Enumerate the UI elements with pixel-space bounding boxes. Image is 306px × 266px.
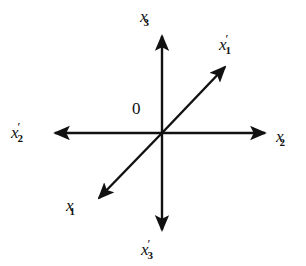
x1-axis-label: x1 [66,193,75,217]
x3-prime-axis-label: x′3 [141,237,153,261]
x1-axis-line [99,133,162,198]
x3-axis-label: x3 [140,4,149,28]
x2-label-subscript: 2 [280,136,286,148]
x1-prime-axis-label: x′1 [219,32,231,56]
x3-label-subscript: 3 [144,16,150,28]
x1-prime-label-subscript: 1 [225,44,231,56]
x1-prime-axis-line [162,67,225,133]
origin-label: 0 [132,100,141,117]
x2-prime-label-subscript: 2 [17,132,23,144]
coordinate-axes-diagram: x3 x′3 x2 x′2 x′1 x1 0 [0,0,306,266]
x3-prime-label-subscript: 3 [147,249,153,261]
x1-label-subscript: 1 [70,205,76,217]
axes-drawing [0,0,306,266]
x2-prime-axis-label: x′2 [11,120,23,144]
x2-axis-label: x2 [276,124,285,148]
